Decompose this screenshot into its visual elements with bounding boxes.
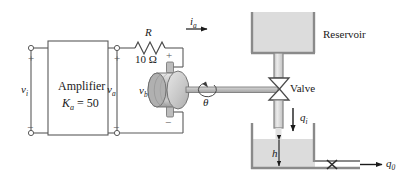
reservoir-water xyxy=(252,12,314,53)
resistor-value-label: 10 Ω xyxy=(135,54,157,65)
input-plus-sign: + xyxy=(28,53,34,64)
amplifier-gain-symbol: K xyxy=(62,96,70,110)
motor-minus-sign: − xyxy=(165,117,171,128)
level-label: h xyxy=(272,148,278,159)
amplifier-gain-subscript: a xyxy=(70,103,74,112)
valve-label: Valve xyxy=(290,83,315,94)
current-subscript: a xyxy=(193,21,197,30)
input-voltage-subscript: i xyxy=(26,89,28,98)
inflow-label: qi xyxy=(300,112,308,123)
reservoir-label: Reservoir xyxy=(323,29,366,40)
outflow-subscript: 0 xyxy=(392,163,396,172)
tank-water xyxy=(253,139,315,168)
motor-terminal-positive xyxy=(167,62,174,73)
input-voltage-label: vi xyxy=(21,84,28,95)
back-emf-subscript: b xyxy=(144,90,148,99)
supply-pipe-upper xyxy=(274,53,283,78)
figure-canvas: Amplifier Ka= 50 vi va vb R 10 Ω ia θ Re… xyxy=(0,0,406,177)
shaft-angle-label: θ xyxy=(203,97,208,108)
resistor-symbol-label: R xyxy=(145,27,152,38)
input-minus-sign: − xyxy=(27,122,33,133)
amplifier-output-plus-sign: + xyxy=(114,53,120,64)
amplifier-output-voltage-label: va xyxy=(107,84,116,95)
amplifier-output-minus-sign: − xyxy=(113,122,119,133)
amplifier-gain-value: = 50 xyxy=(77,96,99,110)
amplifier-name-label: Amplifier xyxy=(58,80,105,92)
current-label: ia xyxy=(190,16,197,27)
outflow-label: q0 xyxy=(386,158,395,169)
motor-plus-sign: + xyxy=(166,50,172,61)
amplifier-gain-label: Ka= 50 xyxy=(62,97,99,109)
inflow-subscript: i xyxy=(306,117,308,126)
supply-pipe-lower xyxy=(274,100,283,128)
output-voltage-subscript: a xyxy=(112,89,116,98)
output-terminal-positive xyxy=(114,45,119,50)
back-emf-label: vb xyxy=(139,85,148,96)
motor-shaft xyxy=(186,87,278,92)
input-terminal-positive xyxy=(28,45,33,50)
